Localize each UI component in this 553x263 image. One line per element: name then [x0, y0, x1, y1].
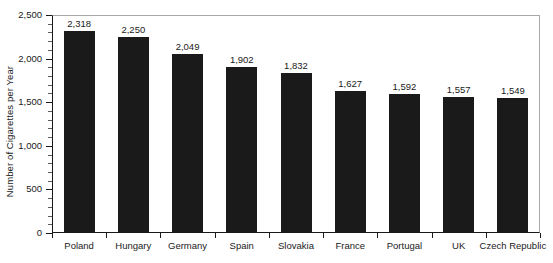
y-axis-minor-tick — [48, 32, 52, 33]
bar-value-label: 1,592 — [374, 81, 434, 92]
y-axis-tick — [46, 59, 52, 60]
y-axis-title: Number of Cigarettes per Year — [2, 0, 18, 263]
bar-value-label: 2,049 — [158, 41, 218, 52]
y-axis-tick-label: 1,500 — [0, 97, 42, 107]
bar — [443, 97, 474, 233]
x-axis-tick — [106, 233, 107, 238]
bar — [389, 94, 420, 233]
y-axis-minor-tick — [48, 163, 52, 164]
y-axis-minor-tick — [48, 41, 52, 42]
bar — [281, 73, 312, 233]
x-axis-tick — [377, 233, 378, 238]
y-axis-minor-tick — [48, 120, 52, 121]
bar — [226, 67, 257, 233]
bar-value-label: 1,557 — [429, 84, 489, 95]
x-axis-tick — [160, 233, 161, 238]
y-axis-tick — [46, 189, 52, 190]
y-axis-minor-tick — [48, 181, 52, 182]
y-axis-minor-tick — [48, 76, 52, 77]
bar — [118, 37, 149, 233]
bar-value-label: 1,902 — [212, 54, 272, 65]
x-axis-tick — [215, 233, 216, 238]
y-axis-minor-tick — [48, 216, 52, 217]
bar-value-label: 2,318 — [49, 18, 109, 29]
bar — [497, 98, 528, 233]
x-axis-tick — [540, 233, 541, 238]
x-axis-tick — [486, 233, 487, 238]
y-axis-minor-tick — [48, 93, 52, 94]
y-axis-minor-tick — [48, 155, 52, 156]
x-axis-tick — [432, 233, 433, 238]
y-axis-minor-tick — [48, 137, 52, 138]
bar — [335, 91, 366, 233]
x-axis-tick — [323, 233, 324, 238]
bar — [64, 31, 95, 233]
y-axis-tick-label: 0 — [0, 228, 42, 238]
y-axis-tick-label: 1,000 — [0, 141, 42, 151]
bar-value-label: 2,250 — [103, 24, 163, 35]
y-axis-minor-tick — [48, 85, 52, 86]
y-axis-minor-tick — [48, 198, 52, 199]
x-axis-tick — [269, 233, 270, 238]
bar-chart: Number of Cigarettes per Year 05001,0001… — [0, 0, 553, 263]
y-axis-minor-tick — [48, 128, 52, 129]
y-axis-tick — [46, 102, 52, 103]
y-axis-tick-label: 2,500 — [0, 10, 42, 20]
bar-value-label: 1,549 — [483, 85, 543, 96]
bar — [172, 54, 203, 233]
y-axis-tick-label: 2,000 — [0, 54, 42, 64]
bar-value-label: 1,627 — [320, 78, 380, 89]
y-axis-tick-label: 500 — [0, 184, 42, 194]
y-axis-tick — [46, 146, 52, 147]
y-axis-tick — [46, 15, 52, 16]
x-axis-category-label: Czech Republic — [463, 240, 553, 252]
y-axis-minor-tick — [48, 207, 52, 208]
y-axis-minor-tick — [48, 224, 52, 225]
y-axis-minor-tick — [48, 50, 52, 51]
y-axis-minor-tick — [48, 67, 52, 68]
y-axis-minor-tick — [48, 172, 52, 173]
bar-value-label: 1,832 — [266, 60, 326, 71]
y-axis-minor-tick — [48, 111, 52, 112]
x-axis-tick — [52, 233, 53, 238]
